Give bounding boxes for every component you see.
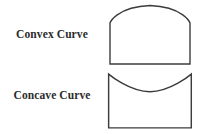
label-concave-curve: Concave Curve <box>0 89 104 102</box>
diagram-canvas: Convex Curve Concave Curve <box>0 0 201 134</box>
shape-convex-curve <box>104 0 198 70</box>
shape-concave-curve <box>104 70 198 132</box>
convex-curve-outline-path <box>110 6 190 65</box>
concave-curve-outline-path <box>109 74 192 128</box>
label-convex-curve: Convex Curve <box>0 28 104 41</box>
